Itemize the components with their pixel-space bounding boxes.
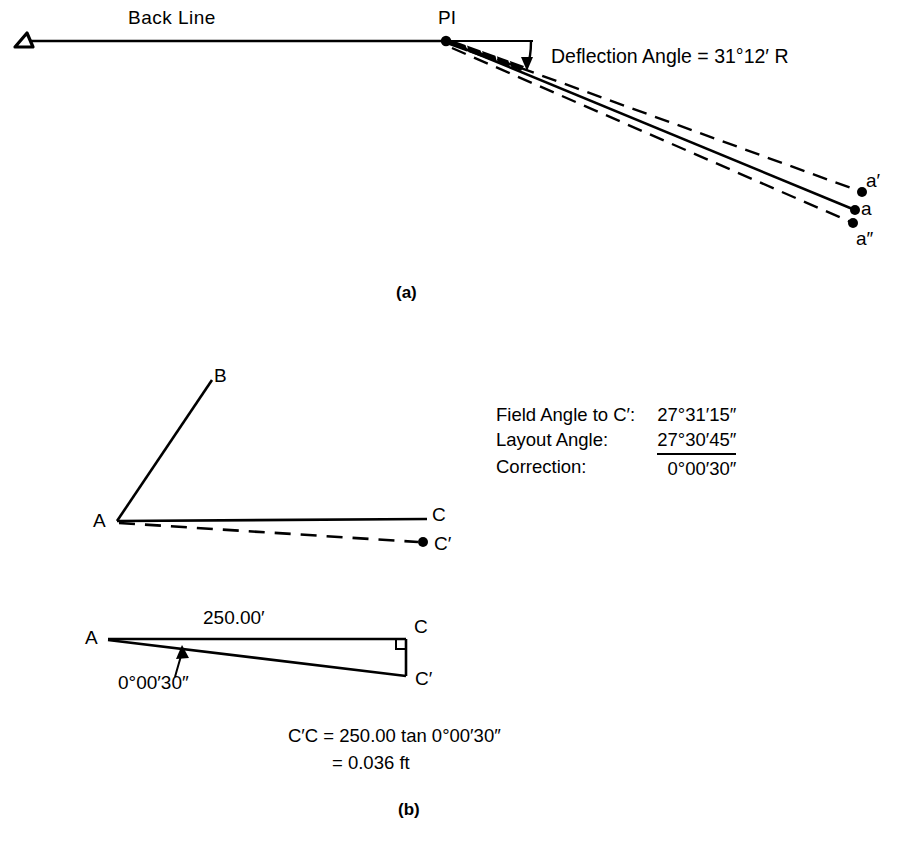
surveying-figure-canvas [0,0,905,845]
side-a-to-c-prime [108,640,406,676]
caption-b: (b) [398,801,420,818]
ray-a-to-c [117,519,427,521]
formula-line-2: = 0.036 ft [332,752,410,774]
table-row: Layout Angle: 27°30′45″ [496,429,736,454]
deflection-angle-label: Deflection Angle = 31°12′ R [551,47,789,67]
label-a-lower: A [85,628,98,647]
correction-value: 0°00′30″ [657,454,736,483]
formula-line-1: C′C = 250.00 tan 0°00′30″ [288,725,501,747]
label-a-prime: a′ [866,171,880,190]
layout-angle-label: Layout Angle: [496,429,657,454]
caption-a: (a) [396,284,417,301]
right-angle-square-icon [396,639,406,649]
figure-page: Back Line PI Deflection Angle = 31°12′ R… [0,0,905,845]
ray-a-to-b [117,380,212,521]
point-a [850,205,860,215]
label-c-upper: C [432,505,446,524]
correction-angle-label: 0°00′30″ [118,673,189,692]
label-b-upper: B [214,366,227,385]
ray-a-to-c-prime [119,523,418,542]
field-angle-value: 27°31′15″ [657,404,736,429]
label-c-lower: C [414,617,428,636]
angle-computation-table: Field Angle to C′: 27°31′15″ Layout Angl… [496,404,736,483]
forward-line-dashed-lower [452,48,853,223]
angle-leader-arrowhead-icon [176,645,189,659]
correction-label: Correction: [496,454,657,483]
layout-angle-value: 27°30′45″ [657,429,736,454]
point-a-double-prime [848,218,858,228]
label-c-prime-lower: C′ [415,669,432,688]
distance-label: 250.00′ [203,608,265,627]
panel-b-upper-graphics [117,380,428,547]
label-a-double-prime: a″ [856,229,873,248]
point-c-prime-upper [418,537,428,547]
label-a-upper: A [93,511,106,530]
table-row: Correction: 0°00′30″ [496,454,736,483]
pi-label: PI [438,8,456,27]
label-a: a [861,199,872,218]
back-line-label: Back Line [128,8,216,27]
table-row: Field Angle to C′: 27°31′15″ [496,404,736,429]
field-angle-label: Field Angle to C′: [496,404,657,429]
label-c-prime-upper: C′ [434,534,451,553]
